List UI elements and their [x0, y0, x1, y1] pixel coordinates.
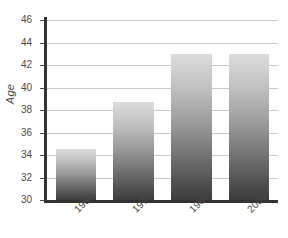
y-axis-tick-label: 44	[6, 38, 32, 48]
y-axis-tick-label: 38	[6, 105, 32, 115]
bar	[229, 54, 269, 200]
bar-chart: Age 303234363840424446 1960197019802003	[0, 0, 288, 238]
plot-area	[47, 20, 278, 200]
y-axis-tick-label: 32	[6, 173, 32, 183]
bar	[113, 102, 153, 200]
y-axis-tick-labels: 303234363840424446	[6, 0, 32, 238]
gridline	[47, 43, 278, 44]
y-axis-tick-label: 46	[6, 15, 32, 25]
bar	[171, 54, 211, 200]
gridline	[47, 20, 278, 21]
y-axis-tick-label: 36	[6, 128, 32, 138]
y-axis-tick-label: 30	[6, 195, 32, 205]
y-axis-tick-label: 34	[6, 150, 32, 160]
y-axis-tick-label: 40	[6, 83, 32, 93]
y-axis-tick-label: 42	[6, 60, 32, 70]
y-axis-line	[44, 17, 47, 203]
